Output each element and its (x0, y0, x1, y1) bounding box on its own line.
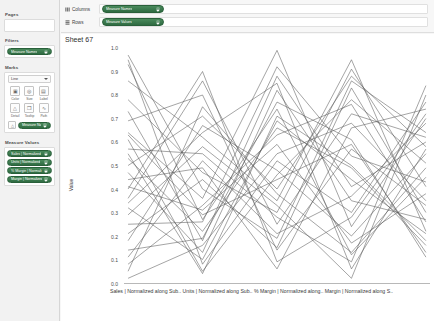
marks-color-label: Color (11, 97, 19, 101)
chevron-down-icon[interactable] (44, 169, 48, 173)
marks-path-label: Path (40, 114, 47, 118)
measure-value-pill[interactable]: % Margin | Normali (7, 167, 52, 174)
marks-card-pill-measure-names[interactable]: Measure Names (18, 122, 51, 129)
y-axis-ticks: 0.00.10.20.30.40.50.60.70.80.91.0 (71, 48, 121, 284)
tooltip-icon[interactable]: ❐ (24, 103, 34, 113)
label-icon[interactable]: ▤ (39, 86, 49, 96)
x-axis-label: Sales | Normalized along Sub.. Units | N… (73, 288, 430, 294)
marks-path-button[interactable]: ∿ Path (37, 103, 51, 118)
y-axis-tick: 0.7 (111, 116, 118, 122)
filter-pill-label: Measure Names (11, 50, 37, 54)
chart-line-series[interactable] (128, 76, 426, 241)
columns-icon (65, 7, 70, 12)
marks-card[interactable]: Line ▣ Color ◎ Size ▤ Label (4, 72, 55, 133)
measure-value-pill[interactable]: Units | Normalized (7, 159, 52, 166)
rows-pill-label: Measure Values (106, 20, 132, 24)
measure-values-shelf[interactable]: Measure Values Sales | Normalized Units … (0, 133, 59, 186)
marks-shelf[interactable]: Marks Line ▣ Color ◎ Size ▤ (0, 58, 59, 133)
chevron-down-icon[interactable] (44, 160, 48, 164)
measure-value-pill-label: % Margin | Normali (11, 169, 42, 173)
worksheet-canvas: Sheet 67 Value 0.00.10.20.30.40.50.60.70… (61, 34, 434, 321)
chevron-down-icon[interactable] (156, 7, 160, 11)
marks-shelf-title: Marks (5, 65, 55, 70)
rows-shelf-label-wrap: Rows (65, 20, 99, 25)
y-axis-tick: 0.3 (111, 210, 118, 216)
shelves-area: Columns Measure Names Rows Measure Value… (61, 0, 434, 33)
measure-value-pill-label: Sales | Normalized (11, 152, 41, 156)
path-icon[interactable]: ∿ (39, 103, 49, 113)
marks-tooltip-button[interactable]: ❐ Tooltip (22, 103, 36, 118)
measure-value-pill[interactable]: Margin | Normalized (7, 176, 52, 183)
marks-size-button[interactable]: ◎ Size (22, 86, 36, 101)
filters-shelf-well[interactable]: Measure Names (4, 45, 55, 58)
chevron-down-icon[interactable] (156, 20, 160, 24)
tableau-worksheet-window: Pages Filters Measure Names Marks Line (0, 0, 434, 321)
y-axis-tick: 0.4 (111, 187, 118, 193)
detail-icon: △ (8, 121, 16, 129)
marks-card-pill-label: Measure Names (22, 123, 41, 127)
measure-values-well[interactable]: Sales | Normalized Units | Normalized % … (4, 147, 55, 186)
measure-value-pill-label: Margin | Normalized (11, 177, 42, 181)
y-axis-tick: 0.1 (111, 257, 118, 263)
rows-shelf-well[interactable]: Measure Values (99, 17, 428, 27)
chart-line-series[interactable] (128, 121, 426, 260)
measure-values-shelf-title: Measure Values (5, 140, 55, 145)
columns-pill-label: Measure Names (106, 7, 132, 11)
chart-line-series[interactable] (128, 64, 426, 254)
marks-label-label: Label (40, 97, 48, 101)
rows-pill-measure-values[interactable]: Measure Values (102, 18, 164, 26)
filter-pill-measure-names[interactable]: Measure Names (7, 48, 52, 55)
plot-region[interactable] (124, 48, 430, 284)
chevron-down-icon[interactable] (44, 50, 48, 54)
rows-icon (65, 20, 70, 25)
y-axis-tick: 0.8 (111, 92, 118, 98)
mark-type-label: Line (11, 77, 18, 81)
pages-shelf[interactable]: Pages (0, 0, 59, 32)
chevron-down-icon[interactable] (43, 123, 47, 127)
y-axis-tick: 0.0 (111, 281, 118, 287)
y-axis-tick: 0.9 (111, 69, 118, 75)
chevron-down-icon[interactable] (44, 78, 48, 80)
columns-shelf-label-wrap: Columns (65, 7, 99, 12)
chart-line-series[interactable] (128, 100, 426, 272)
columns-shelf-label: Columns (72, 7, 90, 12)
sidebar: Pages Filters Measure Names Marks Line (0, 0, 60, 321)
chart-area: Value 0.00.10.20.30.40.50.60.70.80.91.0 … (61, 48, 430, 321)
filters-shelf[interactable]: Filters Measure Names (0, 32, 59, 58)
marks-detail-label: Detail (11, 114, 19, 118)
marks-label-button[interactable]: ▤ Label (37, 86, 51, 101)
rows-shelf[interactable]: Rows Measure Values (65, 16, 428, 28)
columns-shelf[interactable]: Columns Measure Names (65, 3, 428, 15)
y-axis-tick: 1.0 (111, 45, 118, 51)
chart-line-series[interactable] (128, 55, 426, 238)
sheet-title: Sheet 67 (65, 36, 93, 43)
marks-tooltip-label: Tooltip (25, 114, 35, 118)
marks-detail-button[interactable]: △ Detail (8, 103, 22, 118)
y-axis-tick: 0.5 (111, 163, 118, 169)
line-chart-svg[interactable] (124, 48, 430, 283)
marks-color-button[interactable]: ▣ Color (8, 86, 22, 101)
columns-pill-measure-names[interactable]: Measure Names (102, 5, 164, 13)
mark-type-dropdown[interactable]: Line (8, 75, 51, 83)
chevron-down-icon[interactable] (44, 152, 48, 156)
marks-size-label: Size (26, 97, 32, 101)
pages-shelf-title: Pages (5, 12, 55, 17)
pages-shelf-well[interactable] (4, 19, 55, 32)
size-icon[interactable]: ◎ (24, 86, 34, 96)
measure-value-pill-label: Units | Normalized (11, 160, 40, 164)
y-axis-tick: 0.2 (111, 234, 118, 240)
chevron-down-icon[interactable] (44, 177, 48, 181)
columns-shelf-well[interactable]: Measure Names (99, 4, 428, 14)
marks-button-grid: ▣ Color ◎ Size ▤ Label △ Detail (8, 86, 51, 120)
filters-shelf-title: Filters (5, 38, 55, 43)
rows-shelf-label: Rows (72, 20, 84, 25)
detail-icon[interactable]: △ (10, 103, 20, 113)
y-axis-tick: 0.6 (111, 139, 118, 145)
marks-card-pill-row[interactable]: △ Measure Names (8, 121, 51, 129)
color-icon[interactable]: ▣ (10, 86, 20, 96)
measure-value-pill[interactable]: Sales | Normalized (7, 150, 52, 157)
